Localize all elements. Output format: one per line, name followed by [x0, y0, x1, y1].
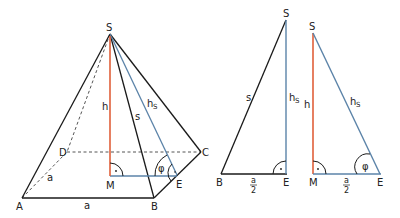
label-phi: φ [158, 163, 165, 174]
label-S: S [283, 8, 289, 19]
label-h: h [304, 99, 310, 110]
label-B: B [216, 177, 223, 188]
label-phi: φ [362, 161, 369, 172]
label-a-front: a [84, 200, 90, 211]
label-E: E [377, 177, 383, 188]
label-a-side: a [47, 172, 53, 183]
right-angle-arc-E [168, 164, 172, 181]
label-half-a-den: 2 [251, 186, 256, 195]
label-S: S [106, 22, 112, 33]
label-s: s [135, 111, 140, 122]
right-angle-dot-E [280, 168, 282, 170]
right-angle-arc-M [110, 163, 123, 176]
right-angle-dot-E [174, 171, 176, 173]
label-hs-sub: S [356, 101, 361, 109]
lateral-edge-SC [110, 34, 201, 152]
label-D: D [59, 147, 67, 158]
label-C: C [202, 147, 209, 158]
slant-height-SE [313, 33, 380, 174]
label-half-a-den: 2 [344, 186, 349, 195]
slant-height-SE [110, 34, 177, 175]
lateral-edge-SA [22, 34, 110, 198]
label-hs-sub: S [295, 97, 300, 105]
label-B: B [151, 201, 158, 212]
label-half-a-num: a [251, 176, 256, 185]
hidden-edge-AD [22, 152, 67, 198]
triangle-side-face: S B E s h S a 2 [216, 8, 300, 195]
lateral-edge-SB [110, 34, 154, 198]
diagram-canvas: S A B C D M E h s h S a a φ S B E s h S … [0, 0, 400, 218]
label-h: h [102, 101, 108, 112]
label-s: s [246, 92, 251, 103]
right-angle-arc-E [273, 161, 286, 174]
right-angle-arc-M [313, 161, 326, 174]
triangle-height: S M E h h S φ a 2 [304, 21, 383, 195]
label-E: E [176, 179, 182, 190]
right-angle-dot-M [115, 170, 117, 172]
label-S: S [309, 21, 315, 32]
label-half-a-num: a [344, 176, 349, 185]
label-M: M [309, 177, 318, 188]
label-E: E [283, 177, 289, 188]
label-M: M [106, 180, 115, 191]
pyramid: S A B C D M E h s h S a a φ [16, 22, 209, 212]
edge-SB [221, 20, 286, 174]
right-angle-dot-M [317, 168, 319, 170]
hidden-edge-SD [67, 34, 110, 152]
label-A: A [16, 201, 23, 212]
label-hs-sub: S [153, 103, 158, 111]
